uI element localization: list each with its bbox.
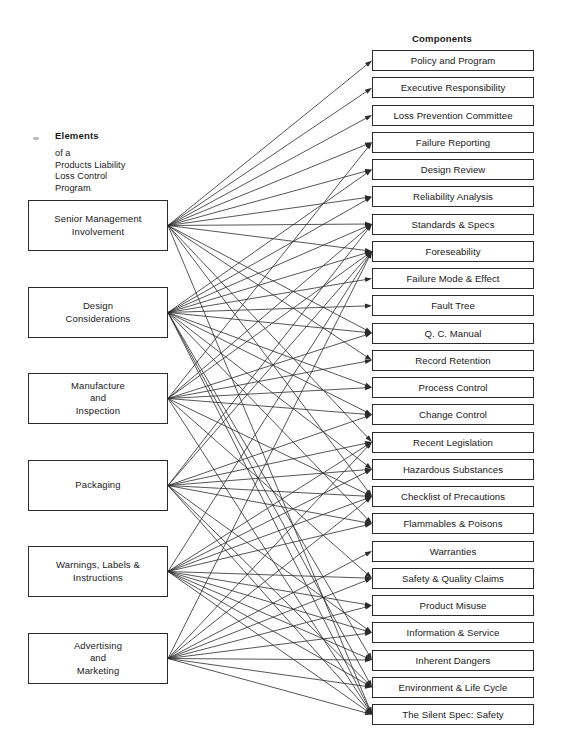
- component-box[interactable]: Inherent Dangers: [372, 650, 534, 671]
- component-box[interactable]: Process Control: [372, 377, 534, 398]
- element-box[interactable]: Packaging: [28, 460, 168, 511]
- component-box-label: Record Retention: [415, 355, 490, 366]
- connection-arrowhead: [365, 627, 372, 633]
- element-box[interactable]: Senior Management Involvement: [28, 200, 168, 251]
- element-box[interactable]: Warnings, Labels & Instructions: [28, 546, 168, 597]
- connection-arrowhead: [365, 115, 372, 120]
- connection-arrowhead: [365, 497, 372, 502]
- connection-line: [168, 417, 367, 486]
- component-box[interactable]: Record Retention: [372, 350, 534, 371]
- connection-line: [168, 388, 367, 399]
- component-box[interactable]: Information & Service: [372, 622, 534, 643]
- connection-line: [168, 144, 367, 225]
- connection-line: [168, 486, 367, 497]
- connection-line: [168, 256, 370, 658]
- connection-arrowhead: [365, 88, 372, 94]
- connection-line: [168, 226, 367, 312]
- component-box-label: Q. C. Manual: [424, 328, 481, 339]
- component-box-label: Information & Service: [407, 627, 500, 638]
- component-box-label: Process Control: [419, 382, 488, 393]
- component-box[interactable]: Recent Legislation: [372, 432, 534, 453]
- connection-arrowhead: [365, 169, 372, 174]
- connection-line: [168, 171, 367, 226]
- component-box[interactable]: Failure Reporting: [372, 132, 534, 153]
- connection-arrowhead: [365, 195, 372, 200]
- connection-line: [168, 199, 367, 312]
- component-box[interactable]: Loss Prevention Committee: [372, 105, 534, 126]
- connection-arrowhead: [365, 415, 372, 420]
- connection-line: [168, 399, 369, 710]
- elements-heading: Elements: [55, 130, 99, 141]
- component-box[interactable]: Safety & Quality Claims: [372, 568, 534, 589]
- connection-line: [168, 313, 370, 710]
- connection-arrowhead: [365, 441, 372, 446]
- connection-line: [168, 572, 367, 685]
- connection-line: [168, 173, 367, 313]
- component-box[interactable]: Design Review: [372, 159, 534, 180]
- connection-line: [168, 198, 367, 226]
- connection-arrowhead: [365, 628, 372, 633]
- connection-line: [168, 399, 367, 495]
- connection-arrowhead: [365, 576, 372, 581]
- component-box[interactable]: Standards & Specs: [372, 214, 534, 235]
- connection-line: [168, 313, 367, 333]
- connection-arrowhead: [365, 709, 372, 715]
- component-box-label: Environment & Life Cycle: [399, 682, 508, 693]
- connection-arrowhead: [365, 497, 372, 503]
- connection-arrowhead: [365, 684, 372, 689]
- element-box[interactable]: Manufacture and Inspection: [28, 373, 168, 424]
- component-box[interactable]: Policy and Program: [372, 50, 534, 71]
- connection-line: [168, 486, 368, 684]
- connection-arrowhead: [365, 412, 372, 417]
- element-box-label: Warnings, Labels & Instructions: [56, 559, 140, 584]
- component-box[interactable]: Fault Tree: [372, 295, 534, 316]
- connection-line: [168, 500, 368, 659]
- connection-line: [168, 255, 368, 485]
- connection-line: [168, 335, 367, 399]
- component-box[interactable]: Q. C. Manual: [372, 323, 534, 344]
- component-box-label: Standards & Specs: [412, 219, 495, 230]
- component-box[interactable]: Reliability Analysis: [372, 186, 534, 207]
- element-box[interactable]: Advertising and Marketing: [28, 633, 168, 684]
- connection-arrowhead: [365, 409, 372, 414]
- connection-arrowhead: [365, 328, 372, 333]
- component-box-label: Recent Legislation: [413, 437, 493, 448]
- connection-line: [168, 572, 367, 605]
- connection-arrowhead: [365, 354, 372, 360]
- connection-arrowhead: [365, 655, 372, 660]
- component-box[interactable]: Change Control: [372, 404, 534, 425]
- connection-line: [168, 633, 367, 658]
- connection-arrowhead: [365, 602, 372, 607]
- connection-line: [168, 498, 367, 571]
- component-box[interactable]: Product Misuse: [372, 595, 534, 616]
- component-box-label: Checklist of Precautions: [401, 491, 505, 502]
- component-box[interactable]: Failure Mode & Effect: [372, 268, 534, 289]
- connection-arrowhead: [365, 572, 372, 578]
- connection-line: [168, 226, 369, 493]
- connection-line: [168, 399, 367, 415]
- component-box[interactable]: The Silent Spec: Safety: [372, 704, 534, 725]
- connection-arrowhead: [365, 170, 372, 176]
- element-box-label: Senior Management Involvement: [54, 213, 141, 238]
- connection-line: [168, 313, 367, 386]
- component-box-label: Change Control: [419, 409, 487, 420]
- connection-line: [168, 445, 367, 572]
- component-box[interactable]: Executive Responsibility: [372, 77, 534, 98]
- component-box[interactable]: Foreseability: [372, 241, 534, 262]
- connection-line: [168, 659, 367, 714]
- connection-line: [168, 443, 367, 485]
- element-box[interactable]: Design Considerations: [28, 287, 168, 338]
- connection-line: [168, 470, 367, 486]
- component-box[interactable]: Warranties: [372, 541, 534, 562]
- connection-line: [168, 226, 368, 438]
- connection-line: [168, 228, 369, 485]
- component-box[interactable]: Environment & Life Cycle: [372, 677, 534, 698]
- component-box[interactable]: Hazardous Substances: [372, 459, 534, 480]
- connection-line: [168, 256, 369, 572]
- component-box[interactable]: Flammables & Poisons: [372, 513, 534, 534]
- component-box[interactable]: Checklist of Precautions: [372, 486, 534, 507]
- connection-line: [168, 313, 368, 520]
- connection-line: [168, 572, 367, 632]
- connection-arrowhead: [365, 385, 372, 390]
- connection-arrowhead: [365, 578, 372, 583]
